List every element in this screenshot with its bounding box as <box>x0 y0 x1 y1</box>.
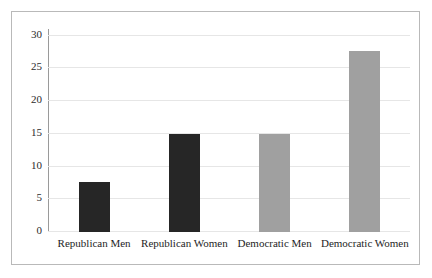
bars-layer: Republican MenRepublican WomenDemocratic… <box>49 29 410 232</box>
y-axis-tick-label: 15 <box>31 127 42 138</box>
bar[interactable] <box>169 134 200 232</box>
y-axis-tick-label: 25 <box>31 62 42 73</box>
bar[interactable] <box>259 134 290 232</box>
plot-area: 051015202530 Republican MenRepublican Wo… <box>48 29 410 232</box>
bar-group: Democratic Men <box>259 29 290 232</box>
bar-group: Republican Women <box>169 29 200 232</box>
bar-chart-figure: 051015202530 Republican MenRepublican Wo… <box>11 11 420 265</box>
y-axis-tick-label: 10 <box>31 160 42 171</box>
x-axis-category-label: Republican Men <box>58 238 131 249</box>
x-axis-category-label: Republican Women <box>141 238 228 249</box>
y-axis-tick-label: 5 <box>37 193 43 204</box>
x-axis-category-label: Democratic Men <box>238 238 312 249</box>
x-axis-category-label: Democratic Women <box>321 238 409 249</box>
y-axis-tick-label: 30 <box>31 29 42 40</box>
y-axis-tick-label: 0 <box>37 225 43 236</box>
y-axis-tick-label: 20 <box>31 94 42 105</box>
bar[interactable] <box>349 51 380 232</box>
bar-group: Democratic Women <box>349 29 380 232</box>
bar-group: Republican Men <box>79 29 110 232</box>
bar[interactable] <box>79 182 110 232</box>
